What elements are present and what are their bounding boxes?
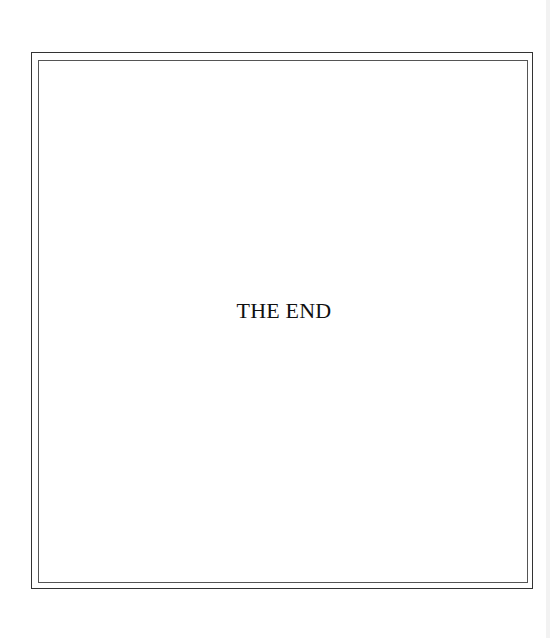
the-end-heading: THE END	[0, 298, 550, 324]
